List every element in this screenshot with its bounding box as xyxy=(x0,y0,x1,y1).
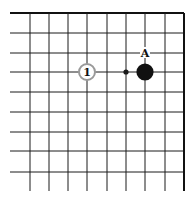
marker-label-a: A xyxy=(140,47,150,60)
black-stone xyxy=(136,63,153,80)
black-stone-icon xyxy=(136,63,153,80)
white-stone-1: 1 xyxy=(79,64,95,80)
stone-move-number: 1 xyxy=(83,66,91,79)
star-point-icon xyxy=(123,69,128,74)
board-grid xyxy=(10,13,184,191)
star-points xyxy=(123,69,128,74)
board-markers: A xyxy=(140,47,150,60)
go-board-diagram: A 1 xyxy=(0,0,191,207)
